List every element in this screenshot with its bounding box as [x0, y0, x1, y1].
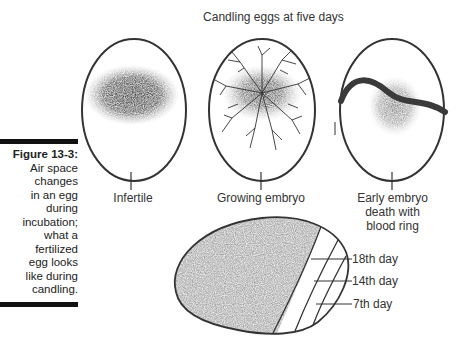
label-7th-day: 7th day — [353, 297, 392, 311]
egg-blood-ring — [335, 39, 445, 190]
label-line: death with — [345, 205, 440, 219]
label-18th-day: 18th day — [352, 252, 398, 266]
egg-infertile — [82, 39, 186, 190]
label-line: blood ring — [345, 219, 440, 233]
label-infertile: Infertile — [93, 191, 173, 205]
label-blood-ring: Early embryo death with blood ring — [345, 191, 440, 233]
label-line: Early embryo — [345, 191, 440, 205]
candling-illustration — [0, 0, 467, 354]
label-14th-day: 14th day — [352, 274, 398, 288]
label-growing-embryo: Growing embryo — [211, 191, 311, 205]
egg-air-space — [160, 200, 352, 345]
egg-growing-embryo — [209, 39, 315, 190]
